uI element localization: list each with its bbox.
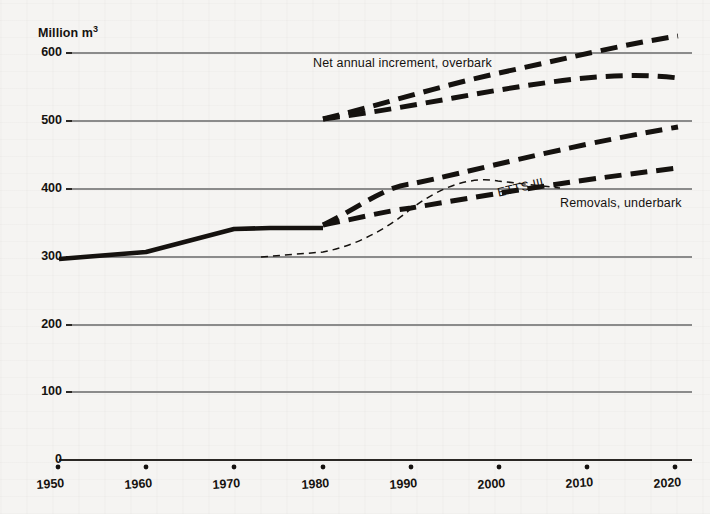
y-tick-label-100: 100 bbox=[22, 384, 62, 398]
y-axis-unit-label: Million m3 bbox=[38, 26, 98, 40]
x-tick-dot-1970 bbox=[232, 465, 237, 470]
series-increment-low bbox=[323, 76, 678, 119]
y-tick-label-600: 600 bbox=[22, 45, 62, 59]
x-tick-dot-2000 bbox=[497, 465, 502, 470]
series-removals-high bbox=[323, 127, 678, 225]
x-tick-dot-2020 bbox=[673, 465, 678, 470]
y-tick-label-500: 500 bbox=[22, 113, 62, 127]
chart-plot-area bbox=[0, 0, 710, 514]
y-tick-label-200: 200 bbox=[22, 317, 62, 331]
x-tick-label-2020: 2020 bbox=[653, 475, 682, 491]
y-axis-tick-stubs bbox=[66, 53, 72, 392]
x-tick-label-2000: 2000 bbox=[477, 476, 506, 492]
x-tick-label-2010: 2010 bbox=[565, 475, 594, 491]
annotation-net-annual-increment: Net annual increment, overbark bbox=[313, 56, 492, 70]
x-tick-dot-1990 bbox=[409, 465, 414, 470]
x-tick-dot-2010 bbox=[585, 465, 590, 470]
x-tick-label-1990: 1990 bbox=[389, 476, 418, 492]
x-tick-label-1960: 1960 bbox=[124, 476, 153, 492]
y-axis-unit-text: Million m bbox=[38, 26, 93, 40]
x-tick-label-1970: 1970 bbox=[212, 476, 241, 492]
annotation-removals-underbark: Removals, underbark bbox=[560, 196, 682, 210]
x-tick-label-1950: 1950 bbox=[36, 476, 65, 492]
y-axis-unit-exponent: 3 bbox=[93, 24, 98, 34]
y-tick-label-400: 400 bbox=[22, 181, 62, 195]
x-tick-label-1980: 1980 bbox=[301, 476, 330, 492]
y-tick-label-0: 0 bbox=[22, 452, 62, 466]
x-tick-dot-1980 bbox=[321, 465, 326, 470]
chart-page: Million m3 600 500 400 300 200 100 0 195… bbox=[0, 0, 710, 514]
x-tick-dot-1960 bbox=[144, 465, 149, 470]
x-axis-tick-dots bbox=[56, 465, 678, 470]
y-tick-label-300: 300 bbox=[22, 249, 62, 263]
series-increment-high bbox=[323, 36, 678, 119]
series-historical-line bbox=[59, 228, 323, 259]
